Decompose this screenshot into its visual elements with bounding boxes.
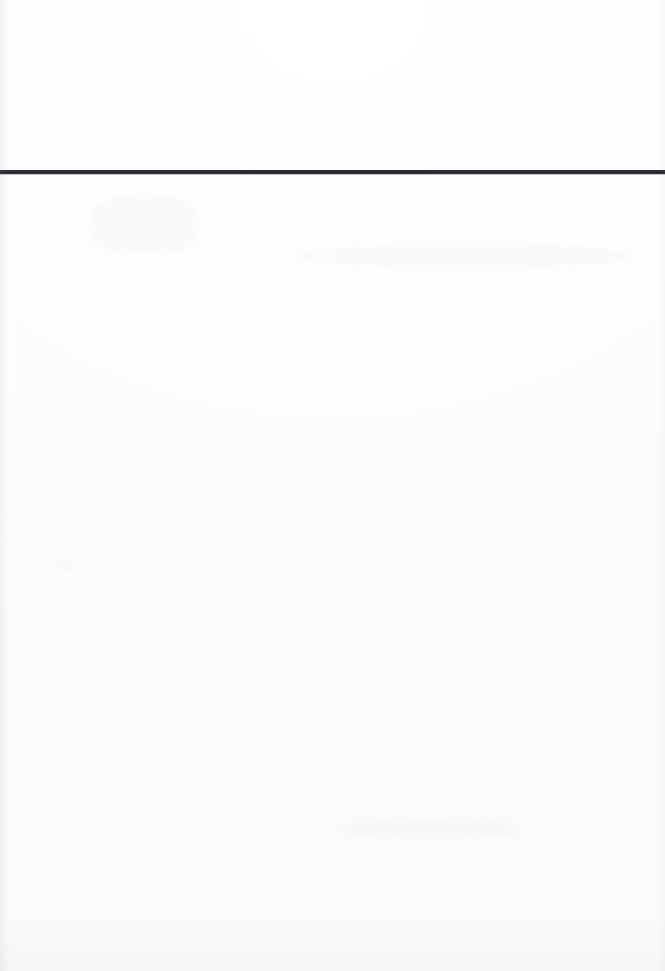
network-mesh-svg bbox=[0, 0, 665, 172]
page-body bbox=[0, 174, 665, 971]
header-network-graphic bbox=[0, 0, 665, 172]
document-page bbox=[0, 0, 665, 971]
